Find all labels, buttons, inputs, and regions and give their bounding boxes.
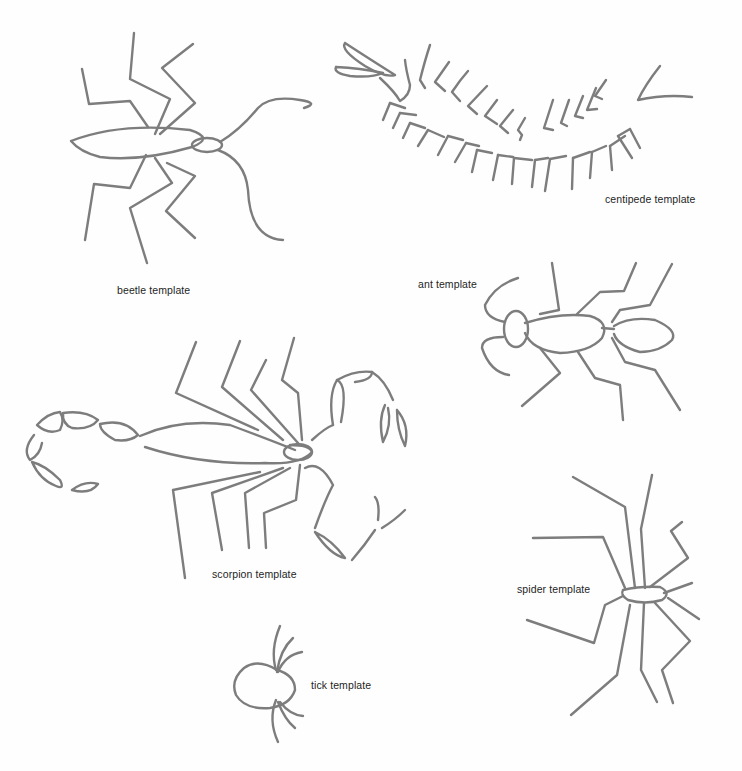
scorpion-drawing [27,338,407,578]
beetle-label: beetle template [117,284,190,296]
spider-drawing [527,475,699,715]
template-sheet: beetle template centipede template ant t… [0,0,742,771]
centipede-drawing [336,43,692,191]
tick-label: tick template [311,679,371,691]
drawing-canvas [0,0,742,771]
tick-drawing [234,626,303,742]
spider-label: spider template [517,583,590,595]
beetle-drawing [71,33,311,263]
scorpion-label: scorpion template [212,568,297,580]
ant-label: ant template [418,278,477,290]
centipede-label: centipede template [605,193,696,205]
ant-drawing [482,263,680,420]
